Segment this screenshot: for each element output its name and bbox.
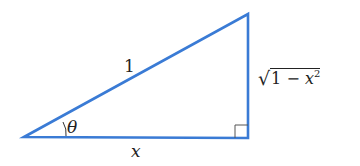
adjacent-side-label: x	[131, 143, 141, 160]
triangle-shape	[24, 14, 248, 138]
angle-theta-label: θ	[67, 119, 77, 136]
radicand-prefix: 1 −	[271, 69, 305, 88]
angle-arc	[63, 122, 66, 136]
radicand-exponent: 2	[314, 68, 320, 79]
radical-sign: √	[258, 67, 270, 89]
opposite-side-label: √1 − x2	[258, 68, 320, 88]
triangle-diagram: 1 θ x √1 − x2	[0, 0, 360, 166]
hypotenuse-label: 1	[124, 58, 135, 75]
radicand-variable: x	[305, 69, 314, 88]
radicand: 1 − x2	[270, 68, 320, 87]
right-angle-marker	[235, 125, 248, 138]
